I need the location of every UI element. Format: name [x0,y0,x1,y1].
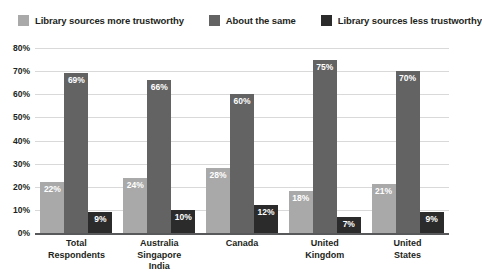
legend-label-less-trustworthy: Library sources less trustworthy [338,15,482,26]
legend-item-less-trustworthy: Library sources less trustworthy [321,15,482,26]
x-axis-category-line: Canada [201,238,284,250]
bar[interactable]: 75% [313,60,337,233]
y-axis-tick-label: 20% [0,183,30,191]
x-axis-category-label: UnitedStates [366,238,449,278]
chart-legend: Library sources more trustworthy About t… [0,12,453,28]
bar-value-label: 28% [209,171,226,180]
bar[interactable]: 18% [289,191,313,233]
chart-plot-area: 22%69%9%24%66%10%28%60%12%18%75%7%21%70%… [0,40,453,240]
x-axis-category-label: AustraliaSingaporeIndia [118,238,201,278]
x-axis-category-labels: TotalRespondentsAustraliaSingaporeIndiaC… [35,238,449,278]
bar-value-label: 10% [175,213,192,222]
bar-value-label: 24% [127,181,144,190]
bar-value-label: 18% [292,194,309,203]
x-axis-category-line: India [118,261,201,273]
y-axis-tick-label: 10% [0,206,30,214]
x-axis-category-line: States [366,250,449,262]
y-axis-tick-label: 0% [0,229,30,237]
bar[interactable]: 7% [337,217,361,233]
bar[interactable]: 66% [147,80,171,233]
y-axis-tick-label: 80% [0,44,30,52]
x-axis-category-line: Total [35,238,118,250]
y-axis-tick-label: 30% [0,160,30,168]
bar-value-label: 69% [68,76,85,85]
y-axis-tick-label: 60% [0,90,30,98]
bar-value-label: 22% [44,185,61,194]
x-axis-category-line: Kingdom [283,250,366,262]
legend-label-about-the-same: About the same [226,15,296,26]
legend-swatch-about-the-same [209,15,220,26]
x-axis-baseline [35,233,449,235]
bar[interactable]: 9% [420,212,444,233]
x-axis-category-line: Australia [118,238,201,250]
bar-value-label: 7% [343,220,355,229]
bar-group: 22%69%9% [35,40,118,233]
legend-item-about-the-same: About the same [209,15,296,26]
bar[interactable]: 24% [123,178,147,234]
bar[interactable]: 22% [40,182,64,233]
bar[interactable]: 28% [206,168,230,233]
legend-swatch-more-trustworthy [18,15,29,26]
x-axis-category-line: United [283,238,366,250]
x-axis-category-label: TotalRespondents [35,238,118,278]
bar-group: 28%60%12% [201,40,284,233]
bar-value-label: 12% [257,208,274,217]
bar-value-label: 66% [151,83,168,92]
bar-group: 18%75%7% [283,40,366,233]
legend-swatch-less-trustworthy [321,15,332,26]
x-axis-category-line: Singapore [118,250,201,262]
bar[interactable]: 21% [372,184,396,233]
legend-item-more-trustworthy: Library sources more trustworthy [18,15,184,26]
bar-value-label: 75% [316,63,333,72]
bar[interactable]: 9% [88,212,112,233]
bar[interactable]: 10% [171,210,195,233]
bar-value-label: 9% [94,215,106,224]
bar[interactable]: 70% [396,71,420,233]
bar-value-label: 9% [425,215,437,224]
bar-value-label: 21% [375,187,392,196]
y-axis-tick-label: 70% [0,67,30,75]
legend-label-more-trustworthy: Library sources more trustworthy [35,15,184,26]
bar[interactable]: 12% [254,205,278,233]
x-axis-category-line: United [366,238,449,250]
y-axis-tick-label: 40% [0,137,30,145]
bar-group: 21%70%9% [366,40,449,233]
bar-groups: 22%69%9%24%66%10%28%60%12%18%75%7%21%70%… [35,40,449,233]
x-axis-category-label: Canada [201,238,284,278]
x-axis-category-label: UnitedKingdom [283,238,366,278]
bar-value-label: 70% [399,74,416,83]
x-axis-category-line: Respondents [35,250,118,262]
bar-value-label: 60% [233,97,250,106]
y-axis-tick-label: 50% [0,113,30,121]
bar[interactable]: 69% [64,73,88,233]
bar[interactable]: 60% [230,94,254,233]
bar-group: 24%66%10% [118,40,201,233]
